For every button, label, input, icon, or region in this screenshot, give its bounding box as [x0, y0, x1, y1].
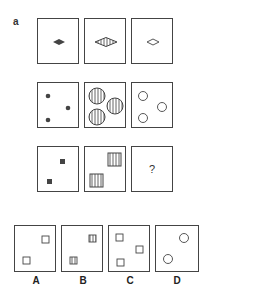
solid-dots-icon — [38, 83, 80, 129]
striped-circles-icon — [85, 83, 127, 129]
cell-r2-c3 — [131, 82, 173, 128]
striped-diamond-icon — [85, 19, 127, 65]
option-d-label: D — [155, 275, 199, 284]
cell-r2-c1 — [37, 82, 79, 128]
option-b-label: B — [61, 275, 105, 284]
cell-r3-c1 — [37, 146, 79, 192]
option-c-label: C — [108, 275, 152, 284]
outline-diamond-icon — [132, 19, 174, 65]
cell-r3-c2 — [84, 146, 126, 192]
cell-r3-c3-missing: ? — [131, 146, 173, 192]
cell-r1-c2 — [84, 18, 126, 64]
question-mark: ? — [132, 147, 172, 191]
outline-circles-icon — [132, 83, 174, 129]
solid-diamond-icon — [38, 19, 80, 65]
option-b[interactable] — [61, 225, 103, 272]
option-c[interactable] — [108, 225, 150, 272]
option-a-label: A — [14, 275, 58, 284]
solid-squares-icon — [38, 147, 80, 193]
outline-squares-icon — [15, 226, 57, 273]
option-a[interactable] — [14, 225, 56, 272]
puzzle-label: a — [13, 16, 19, 27]
cell-r1-c3 — [131, 18, 173, 64]
striped-squares-icon — [85, 147, 127, 193]
cell-r1-c1 — [37, 18, 79, 64]
option-d[interactable] — [155, 225, 199, 272]
striped-small-squares-icon — [62, 226, 104, 273]
cell-r2-c2 — [84, 82, 126, 128]
outline-two-circles-icon — [156, 226, 200, 273]
outline-three-squares-icon — [109, 226, 151, 273]
